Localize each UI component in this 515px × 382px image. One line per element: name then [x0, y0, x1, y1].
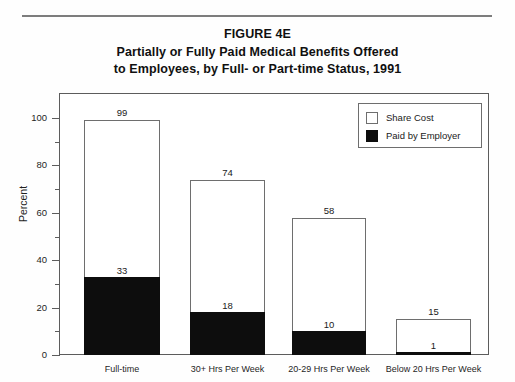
bar-segment-value-label: 10	[292, 319, 366, 330]
legend-label-share-cost: Share Cost	[386, 112, 434, 123]
y-tick-label: 100	[5, 112, 47, 123]
bar-segment-paid-by-employer	[292, 331, 366, 355]
bar-total-value-label: 74	[190, 167, 265, 178]
y-tick-major	[52, 118, 60, 119]
bar-total-value-label: 99	[84, 107, 160, 118]
y-tick-label: 20	[5, 302, 47, 313]
y-tick-major	[52, 308, 60, 309]
bar-segment-value-label: 33	[84, 265, 160, 276]
y-tick-major	[52, 213, 60, 214]
bar-segment-paid-by-employer	[84, 277, 160, 355]
y-tick-major	[52, 260, 60, 261]
y-tick-label: 0	[5, 349, 47, 360]
figure-title-line-1: Partially or Fully Paid Medical Benefits…	[0, 44, 515, 61]
bar-segment-paid-by-employer	[190, 312, 265, 355]
legend-label-paid-by-employer: Paid by Employer	[386, 130, 460, 141]
legend-swatch-share-cost-icon	[366, 112, 378, 124]
figure-number: FIGURE 4E	[0, 26, 515, 43]
y-tick-major	[52, 165, 60, 166]
legend-swatch-paid-by-employer-icon	[366, 130, 378, 142]
y-tick-label: 40	[5, 254, 47, 265]
legend-item-share-cost: Share Cost	[366, 109, 481, 126]
bar-segment-value-label: 18	[190, 300, 265, 311]
y-axis-title: Percent	[17, 169, 29, 239]
bar-segment-value-label: 1	[396, 340, 471, 351]
top-divider-rule	[22, 15, 492, 17]
chart-legend: Share Cost Paid by Employer	[358, 103, 482, 148]
x-tick-label: Below 20 Hrs Per Week	[374, 364, 494, 374]
y-tick-major	[52, 355, 60, 356]
bar-segment-paid-by-employer	[396, 352, 471, 355]
x-tick-label: 20-29 Hrs Per Week	[269, 364, 389, 374]
figure-title-block: FIGURE 4E Partially or Fully Paid Medica…	[0, 26, 515, 78]
figure-title-line-2: to Employees, by Full- or Part-time Stat…	[0, 61, 515, 78]
x-tick-label: Full-time	[62, 364, 182, 374]
bar-total-value-label: 58	[292, 205, 366, 216]
legend-item-paid-by-employer: Paid by Employer	[366, 127, 481, 144]
figure-page: FIGURE 4E Partially or Fully Paid Medica…	[0, 0, 515, 382]
bar-total-value-label: 15	[396, 306, 471, 317]
